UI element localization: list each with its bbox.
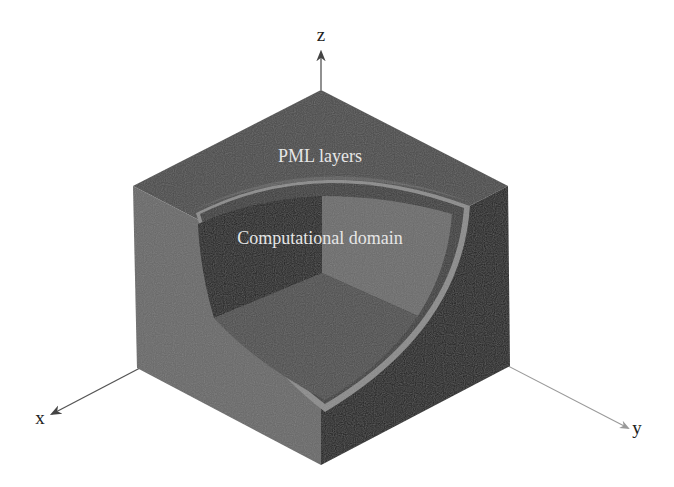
y-axis-line: [508, 366, 628, 428]
z-axis-label: z: [317, 24, 325, 45]
y-axis-label: y: [632, 417, 642, 438]
computational-domain-label: Computational domain: [237, 228, 402, 248]
x-axis-label: x: [35, 407, 45, 428]
x-axis-line: [52, 368, 140, 414]
pml-cube-diagram: PML layers Computational domain z x y: [0, 0, 674, 487]
pml-layers-label: PML layers: [278, 146, 362, 166]
